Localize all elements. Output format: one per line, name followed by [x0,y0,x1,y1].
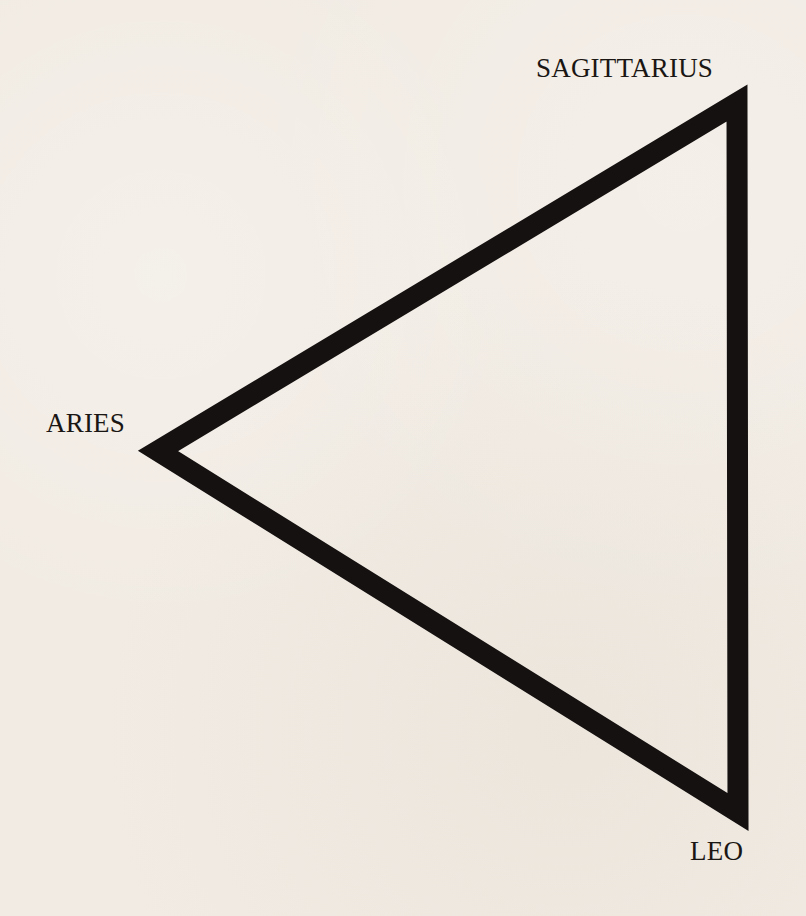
label-aries: ARIES [46,410,125,437]
triangle-shape [158,103,738,812]
label-sagittarius: SAGITTARIUS [536,55,713,82]
fire-trine-triangle [0,0,806,916]
label-leo: LEO [690,838,743,865]
